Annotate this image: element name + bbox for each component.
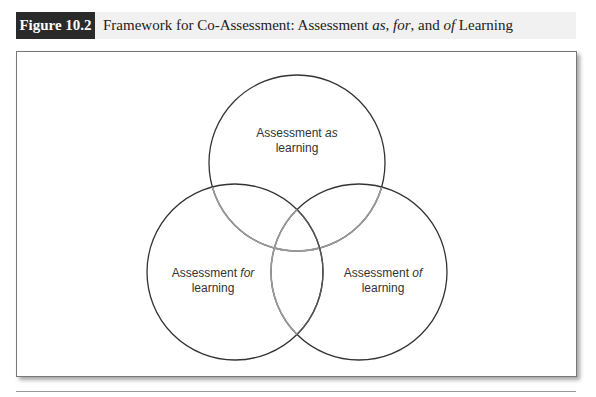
circle-as [209, 75, 385, 251]
venn-diagram [0, 0, 596, 397]
label-assessment-as: Assessment as learning [227, 126, 367, 156]
bottom-rule [16, 391, 576, 392]
label-assessment-for: Assessment for learning [143, 266, 283, 296]
label-assessment-of: Assessment of learning [313, 266, 453, 296]
